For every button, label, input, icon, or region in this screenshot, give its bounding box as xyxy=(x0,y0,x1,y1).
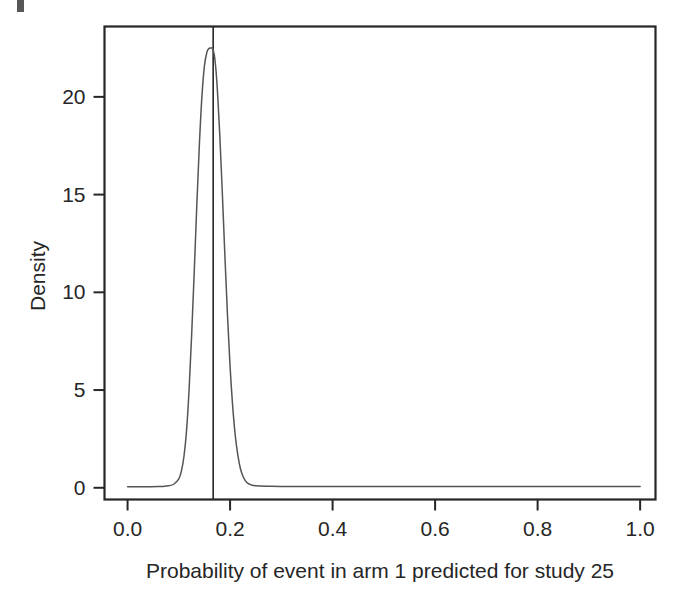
x-axis-tick-labels: 0.00.20.40.60.81.0 xyxy=(113,517,655,540)
x-tick-label-0.8: 0.8 xyxy=(523,517,552,540)
scan-artifact-mark xyxy=(17,0,24,12)
density-curve xyxy=(128,48,641,487)
x-tick-label-0.2: 0.2 xyxy=(215,517,244,540)
x-tick-label-0.6: 0.6 xyxy=(420,517,449,540)
x-axis-title: Probability of event in arm 1 predicted … xyxy=(146,559,614,582)
x-axis-ticks xyxy=(128,500,641,511)
y-tick-label-0: 0 xyxy=(74,476,86,499)
y-axis-tick-labels: 05101520 xyxy=(62,85,85,499)
density-plot-figure: 0.00.20.40.60.81.0 05101520 Probability … xyxy=(0,0,690,606)
y-axis-title: Density xyxy=(26,240,49,311)
chart-canvas: 0.00.20.40.60.81.0 05101520 Probability … xyxy=(0,0,690,606)
y-tick-label-5: 5 xyxy=(74,378,86,401)
y-tick-label-20: 20 xyxy=(62,85,85,108)
x-tick-label-0.4: 0.4 xyxy=(318,517,348,540)
x-tick-label-1.0: 1.0 xyxy=(626,517,655,540)
y-tick-label-10: 10 xyxy=(62,280,85,303)
y-axis-ticks xyxy=(94,97,105,488)
y-tick-label-15: 15 xyxy=(62,183,85,206)
density-curve-group xyxy=(128,48,641,487)
x-tick-label-0.0: 0.0 xyxy=(113,517,142,540)
